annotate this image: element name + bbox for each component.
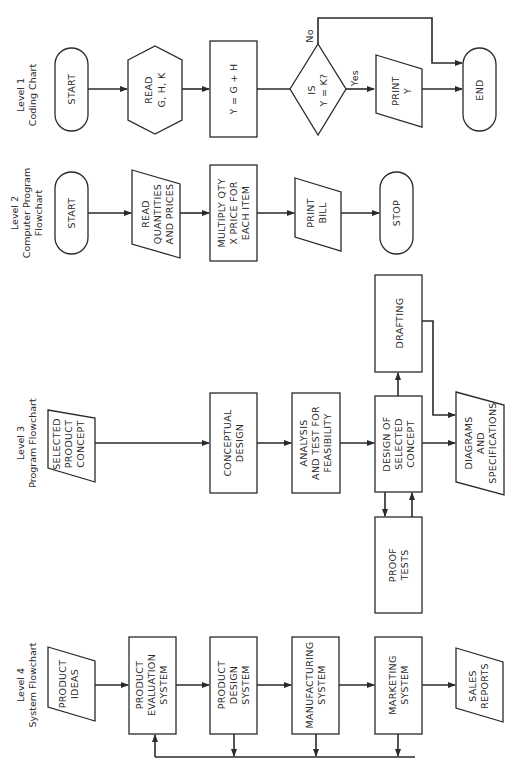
svg-text:SYSTEM: SYSTEM bbox=[316, 665, 327, 705]
l3-diagrams-specifications-io: DIAGRAMS AND SPECIFICATIONS bbox=[456, 392, 504, 495]
l2-print-io: PRINT BILL bbox=[295, 178, 341, 251]
svg-text:START: START bbox=[66, 74, 77, 105]
l1-end-terminal: END bbox=[463, 48, 496, 131]
l2-start-terminal: START bbox=[55, 172, 88, 254]
svg-text:PRODUCT: PRODUCT bbox=[216, 661, 227, 710]
svg-text:Level 1: Level 1 bbox=[15, 78, 26, 112]
svg-text:PRINT: PRINT bbox=[390, 76, 401, 106]
svg-text:MARKETING: MARKETING bbox=[387, 655, 398, 714]
svg-text:System Flowchart: System Flowchart bbox=[27, 642, 38, 727]
svg-text:MANUFACTURING: MANUFACTURING bbox=[304, 642, 315, 729]
svg-text:CONCEPT: CONCEPT bbox=[405, 420, 416, 468]
svg-text:SPECIFICATIONS: SPECIFICATIONS bbox=[487, 402, 498, 483]
l2-multiply-process: MULTIPLY QTY X PRICE FOR EACH ITEM bbox=[210, 165, 257, 261]
svg-text:QUANTITIES: QUANTITIES bbox=[152, 184, 163, 244]
l3-drafting-process: DRAFTING bbox=[375, 275, 422, 372]
flowchart-levels-diagram: Level 1 Coding Chart START READ G, H, K … bbox=[0, 0, 520, 774]
svg-text:CONCEPTUAL: CONCEPTUAL bbox=[222, 409, 233, 477]
l2-read-io: READ QUANTITIES AND PRICES bbox=[132, 170, 180, 258]
svg-text:EVALUATION: EVALUATION bbox=[146, 654, 157, 716]
svg-text:Level 4: Level 4 bbox=[15, 668, 26, 702]
l3-design-selected-concept-process: DESIGN OF SELECTED CONCEPT bbox=[375, 396, 422, 492]
svg-text:SALES: SALES bbox=[467, 670, 478, 702]
svg-text:SYSTEM: SYSTEM bbox=[240, 665, 251, 705]
svg-text:REPORTS: REPORTS bbox=[479, 663, 490, 709]
l4-product-design-system: PRODUCT DESIGN SYSTEM bbox=[210, 637, 257, 734]
svg-text:X PRICE FOR: X PRICE FOR bbox=[228, 181, 239, 244]
svg-text:DIAGRAMS: DIAGRAMS bbox=[463, 416, 474, 469]
svg-text:SELECTED: SELECTED bbox=[51, 418, 62, 469]
level-3-program-flowchart: Level 3 Program Flowchart SELECTED PRODU… bbox=[15, 275, 504, 613]
svg-text:Yes: Yes bbox=[349, 70, 360, 87]
svg-text:IDEAS: IDEAS bbox=[69, 669, 80, 699]
svg-text:Y = K?: Y = K? bbox=[318, 74, 329, 108]
svg-text:CONCEPT: CONCEPT bbox=[75, 420, 86, 468]
svg-text:ANALYSIS: ANALYSIS bbox=[298, 419, 309, 466]
svg-text:AND: AND bbox=[475, 432, 486, 454]
l4-sales-reports-io: SALES REPORTS bbox=[456, 648, 503, 722]
l4-product-evaluation-system: PRODUCT EVALUATION SYSTEM bbox=[129, 637, 176, 734]
l1-print-io: PRINT Y bbox=[376, 55, 422, 127]
svg-text:Program Flowchart: Program Flowchart bbox=[27, 398, 38, 488]
svg-text:SELECTED: SELECTED bbox=[393, 418, 404, 469]
l3-arrow-drafting-to-diagrams bbox=[422, 321, 455, 415]
svg-text:READ: READ bbox=[140, 200, 151, 228]
svg-text:DESIGN OF: DESIGN OF bbox=[381, 416, 392, 471]
svg-text:Level 3: Level 3 bbox=[15, 426, 26, 460]
svg-text:TESTS: TESTS bbox=[399, 549, 410, 581]
l3-analysis-process: ANALYSIS AND TEST FOR FEASIBILITY bbox=[292, 393, 340, 493]
level-1-coding-chart: Level 1 Coding Chart START READ G, H, K … bbox=[15, 18, 496, 137]
level-3-title: Level 3 Program Flowchart bbox=[15, 398, 38, 488]
svg-text:DESIGN: DESIGN bbox=[228, 666, 239, 704]
svg-text:PRODUCT: PRODUCT bbox=[57, 660, 68, 709]
svg-text:Computer Program: Computer Program bbox=[21, 168, 32, 258]
svg-text:G, H, K: G, H, K bbox=[156, 72, 167, 107]
svg-text:IS: IS bbox=[306, 85, 317, 94]
l4-product-ideas-io: PRODUCT IDEAS bbox=[48, 647, 95, 721]
l1-arrow-no bbox=[318, 18, 462, 63]
svg-text:STOP: STOP bbox=[391, 200, 402, 226]
svg-text:PRINT: PRINT bbox=[305, 198, 316, 228]
l3-selected-concept-io: SELECTED PRODUCT CONCEPT bbox=[48, 410, 95, 482]
level-1-title: Level 1 Coding Chart bbox=[15, 64, 38, 127]
svg-text:No: No bbox=[304, 29, 315, 43]
svg-text:DESIGN: DESIGN bbox=[234, 424, 245, 462]
svg-text:READ: READ bbox=[143, 76, 154, 104]
svg-text:Y: Y bbox=[402, 88, 413, 95]
svg-text:Flowchart: Flowchart bbox=[33, 190, 44, 237]
l4-marketing-system: MARKETING SYSTEM bbox=[375, 637, 422, 734]
svg-text:SYSTEM: SYSTEM bbox=[158, 665, 169, 705]
l3-conceptual-design-process: CONCEPTUAL DESIGN bbox=[210, 393, 257, 493]
svg-text:SYSTEM: SYSTEM bbox=[399, 665, 410, 705]
svg-text:AND PRICES: AND PRICES bbox=[164, 184, 175, 245]
l1-yes-label: Yes bbox=[349, 70, 360, 87]
svg-text:START: START bbox=[66, 198, 77, 229]
l1-compute-process: Y = G + H bbox=[210, 41, 257, 137]
svg-text:PROOF: PROOF bbox=[387, 548, 398, 582]
l1-read-hexagon: READ G, H, K bbox=[128, 46, 182, 134]
svg-text:FEASIBILITY: FEASIBILITY bbox=[322, 413, 333, 472]
l2-stop-terminal: STOP bbox=[380, 172, 413, 254]
svg-text:Coding Chart: Coding Chart bbox=[27, 64, 38, 127]
svg-text:PRODUCT: PRODUCT bbox=[134, 661, 145, 710]
level-4-system-flowchart: Level 4 System Flowchart PRODUCT IDEAS P… bbox=[15, 637, 503, 757]
l1-decision-diamond: IS Y = K? bbox=[290, 44, 346, 135]
svg-text:DRAFTING: DRAFTING bbox=[394, 298, 405, 349]
level-4-title: Level 4 System Flowchart bbox=[15, 642, 38, 727]
l4-manufacturing-system: MANUFACTURING SYSTEM bbox=[292, 637, 339, 734]
l1-start-terminal: START bbox=[55, 48, 88, 131]
level-2-program-flowchart: Level 2 Computer Program Flowchart START… bbox=[9, 165, 413, 261]
svg-text:EACH ITEM: EACH ITEM bbox=[240, 186, 251, 241]
svg-text:PRODUCT: PRODUCT bbox=[63, 420, 74, 469]
l1-no-label: No bbox=[304, 29, 315, 43]
svg-text:MULTIPLY QTY: MULTIPLY QTY bbox=[216, 178, 227, 247]
svg-text:Y = G + H: Y = G + H bbox=[228, 63, 239, 115]
level-2-title: Level 2 Computer Program Flowchart bbox=[9, 168, 44, 258]
svg-text:BILL: BILL bbox=[317, 202, 328, 224]
svg-text:AND TEST FOR: AND TEST FOR bbox=[310, 406, 321, 480]
l3-proof-tests-process: PROOF TESTS bbox=[375, 517, 422, 613]
svg-text:Level 2: Level 2 bbox=[9, 196, 20, 230]
svg-text:END: END bbox=[474, 79, 485, 100]
